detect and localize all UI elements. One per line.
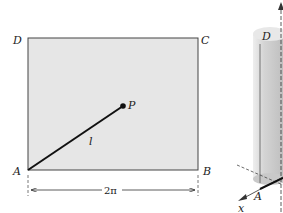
cylinder-a-label: A xyxy=(253,190,262,203)
x-axis-label: x xyxy=(238,202,245,213)
diagram: D C A B P l 2π D A x xyxy=(0,0,283,213)
segment-l-label: l xyxy=(89,135,93,148)
vertex-b-label: B xyxy=(202,165,211,178)
width-label: 2π xyxy=(104,185,117,196)
cylinder xyxy=(237,2,283,213)
vertex-a-label: A xyxy=(12,165,21,178)
point-p-label: P xyxy=(127,99,136,112)
vertex-d-label: D xyxy=(12,34,22,47)
unrolled-rectangle xyxy=(28,38,198,196)
cylinder-d-label: D xyxy=(261,30,271,43)
vertex-c-label: C xyxy=(201,34,210,47)
point-p xyxy=(120,103,126,109)
